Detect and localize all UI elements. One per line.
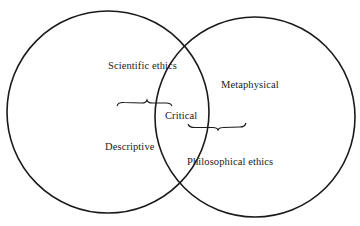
left-brace	[117, 100, 172, 106]
label-philosophical-ethics: Philosophical ethics	[187, 157, 273, 168]
label-critical: Critical	[165, 111, 197, 122]
venn-diagram: Scientific ethics Metaphysical Critical …	[0, 0, 360, 226]
label-descriptive: Descriptive	[105, 142, 155, 153]
label-metaphysical: Metaphysical	[221, 80, 279, 91]
label-scientific-ethics: Scientific ethics	[108, 61, 177, 72]
right-brace	[188, 123, 246, 130]
